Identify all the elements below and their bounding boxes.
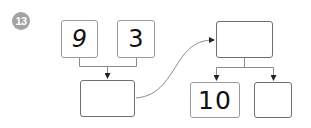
input-value-1: 9 bbox=[72, 25, 87, 53]
whole-answer-box[interactable] bbox=[216, 21, 273, 58]
part-answer-box[interactable] bbox=[254, 82, 292, 118]
part-value-1: 10 bbox=[198, 86, 232, 115]
input-box-1: 9 bbox=[61, 20, 98, 58]
part-box-1: 10 bbox=[190, 82, 240, 118]
sum-answer-box[interactable] bbox=[80, 80, 135, 117]
input-value-2: 3 bbox=[128, 25, 143, 53]
input-box-2: 3 bbox=[117, 20, 155, 58]
left-bracket-connector bbox=[80, 58, 137, 78]
right-split-connector bbox=[217, 58, 274, 80]
